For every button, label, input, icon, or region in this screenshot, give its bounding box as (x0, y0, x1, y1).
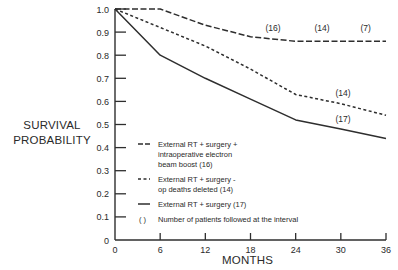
y-tick-label: 0.5 (96, 120, 109, 130)
x-tick-label: 12 (200, 245, 210, 255)
y-tick-label: 0.6 (96, 97, 109, 107)
patient-count-label: (14) (336, 88, 351, 98)
y-tick-label: 0.3 (96, 166, 109, 176)
patient-count-label: (16) (266, 23, 281, 33)
y-tick-label: 0.8 (96, 51, 109, 61)
y-tick-label: 0.7 (96, 74, 109, 84)
legend-item-short-dash: External RT + surgery -op deaths deleted… (138, 175, 236, 194)
legend-text: Number of patients followed at the inter… (158, 215, 298, 224)
y-tick-label: 0.1 (96, 212, 109, 222)
y-tick-label: 0.4 (96, 143, 109, 153)
x-tick-label: 6 (158, 245, 163, 255)
legend-item-parens: ( )Number of patients followed at the in… (139, 215, 298, 224)
x-tick-label: 0 (112, 245, 117, 255)
patient-count-label: (14) (314, 23, 329, 33)
y-tick-label: 0 (104, 236, 109, 246)
y-tick-label: 0.9 (96, 28, 109, 38)
survival-chart: 00.10.20.30.40.50.60.70.80.91.0061218243… (0, 0, 398, 270)
y-tick-label: 0.2 (96, 189, 109, 199)
patient-count-label: (7) (360, 23, 371, 33)
legend: External RT + surgery +intraoperative el… (138, 140, 298, 224)
legend-text: External RT + surgery + (158, 140, 238, 149)
series-line-long-dash (115, 9, 386, 41)
legend-text: External RT + surgery (17) (158, 200, 247, 209)
legend-text: beam boost (16) (158, 160, 213, 169)
y-tick-label: 1.0 (96, 5, 109, 15)
legend-text: intraoperative electron (158, 150, 232, 159)
point-annotations: (16)(14)(7)(14)(17) (266, 23, 372, 124)
patient-count-label: (17) (336, 114, 351, 124)
legend-text: op deaths deleted (14) (158, 185, 234, 194)
legend-text: External RT + surgery - (158, 175, 236, 184)
x-tick-label: 36 (381, 245, 391, 255)
legend-item-long-dash: External RT + surgery +intraoperative el… (138, 140, 238, 169)
x-tick-label: 30 (336, 245, 346, 255)
legend-item-solid: External RT + surgery (17) (138, 200, 247, 209)
x-tick-label: 18 (245, 245, 255, 255)
legend-symbol-parens: ( ) (139, 215, 147, 224)
x-tick-label: 24 (291, 245, 301, 255)
